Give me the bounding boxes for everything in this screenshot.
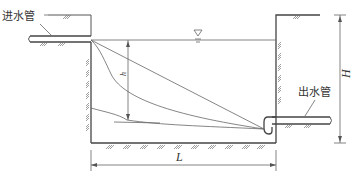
water-surface <box>91 30 276 42</box>
ground-left <box>48 15 91 36</box>
dimension-L <box>91 150 276 171</box>
inlet-pipe-label: 进水管 <box>2 9 35 23</box>
outlet-pipe-label: 出水管 <box>298 85 331 99</box>
inlet-pipe <box>29 36 92 46</box>
dimension-h <box>126 40 130 120</box>
total-height-label: H <box>339 68 353 79</box>
tank-bottom <box>91 143 276 149</box>
drawdown-curves <box>91 40 264 129</box>
tank-drainage-diagram: 进水管 <box>0 0 362 185</box>
length-label: L <box>175 150 183 164</box>
outlet-leader-line <box>305 100 315 116</box>
left-wall <box>86 42 91 143</box>
inlet-leader-line <box>40 24 52 36</box>
outlet-pipe <box>264 117 332 134</box>
water-depth-label: h <box>119 72 128 76</box>
dimension-H <box>334 15 346 143</box>
